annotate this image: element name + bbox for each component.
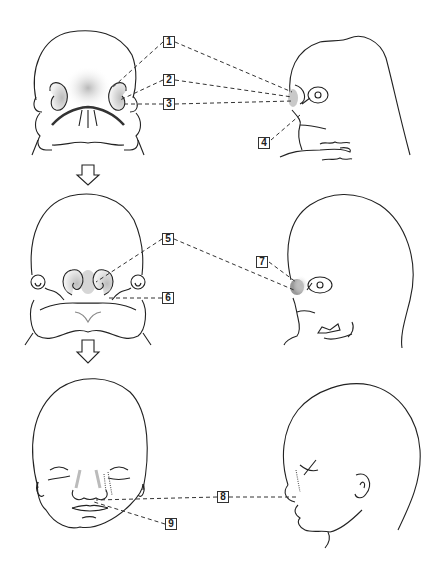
stage1-frontal-head — [32, 31, 144, 155]
label-2: 2 — [163, 74, 175, 86]
leader-lines — [94, 42, 300, 524]
down-arrow-icon — [77, 165, 99, 185]
label-4: 4 — [258, 137, 270, 149]
label-5: 5 — [162, 233, 174, 245]
label-9: 9 — [165, 518, 177, 530]
label-1: 1 — [163, 36, 175, 48]
label-6: 6 — [162, 292, 174, 304]
label-7: 7 — [256, 256, 268, 268]
stage2-frontal-head — [25, 194, 151, 345]
embryo-face-development-diagram — [0, 0, 443, 562]
down-arrow-icon — [77, 340, 99, 363]
stage2-lateral-head — [284, 194, 413, 348]
label-8: 8 — [217, 491, 229, 503]
stage3-lateral-head — [283, 384, 420, 548]
stage3-frontal-head — [33, 379, 148, 528]
stage1-lateral-head — [280, 36, 410, 160]
label-3: 3 — [163, 98, 175, 110]
